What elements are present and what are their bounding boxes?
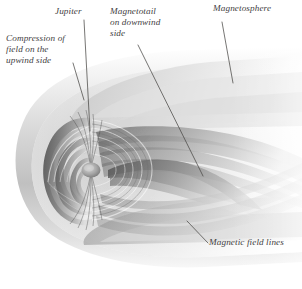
- magnetosphere-figure: Compression of field on the upwind side …: [0, 0, 302, 289]
- label-compression-upwind: Compression of field on the upwind side: [6, 33, 90, 67]
- label-magnetic-field-lines: Magnetic field lines: [209, 237, 301, 248]
- label-jupiter: Jupiter: [55, 6, 101, 17]
- jupiter-planet: [82, 163, 101, 178]
- label-magnetotail-downwind: Magnetotail on downwind side: [110, 6, 184, 40]
- label-magnetosphere: Magnetosphere: [213, 3, 293, 14]
